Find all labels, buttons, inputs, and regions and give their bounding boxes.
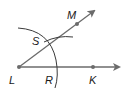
label-k: K <box>89 74 97 86</box>
label-s: S <box>32 35 40 47</box>
label-l: L <box>9 74 15 86</box>
point-l <box>17 65 21 69</box>
label-r: R <box>45 74 53 86</box>
point-m <box>75 22 79 26</box>
label-m: M <box>67 9 77 21</box>
arc-through-s <box>44 37 73 42</box>
point-k <box>91 65 95 69</box>
construction-diagram: M S L R K <box>0 0 127 90</box>
ray-lm <box>19 11 94 67</box>
